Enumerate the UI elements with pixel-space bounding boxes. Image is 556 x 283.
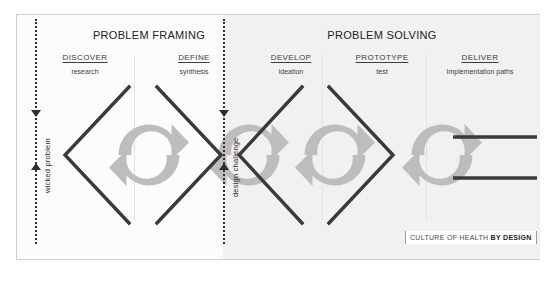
logo-prefix: CULTURE OF HEALTH [410,234,491,241]
cycle-arrows-icon [295,124,375,186]
rail-label-design-challenge: design challenge [231,138,240,198]
rail-design-challenge [223,19,225,244]
diagram-frame: PROBLEM FRAMING PROBLEM SOLVING DISCOVER… [16,14,540,260]
arrow-down-icon [219,110,229,117]
diagram-canvas: PROBLEM FRAMING PROBLEM SOLVING DISCOVER… [0,0,556,283]
rail-label-wicked-problem: wicked problem [43,138,52,193]
arrow-up-icon [31,163,41,170]
logo-culture-of-health-by-design: CULTURE OF HEALTH BY DESIGN [405,231,537,244]
process-artwork [17,15,541,261]
arrow-down-icon [31,110,41,117]
rail-wicked-problem [35,19,37,244]
cycle-arrows-icon [109,124,189,186]
logo-bold: BY DESIGN [491,234,532,241]
arrow-up-icon [219,163,229,170]
